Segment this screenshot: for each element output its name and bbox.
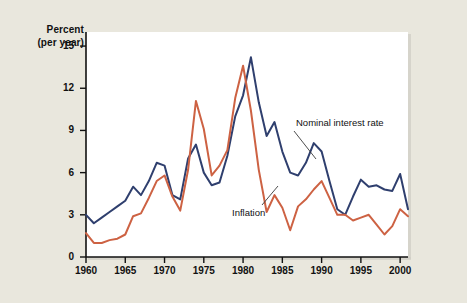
x-axis-tick-label: 1980 <box>226 265 260 276</box>
y-axis-title-line-1: Percent <box>8 24 84 35</box>
plot-area-background <box>86 32 408 257</box>
y-axis-tick-label: 12 <box>52 82 74 93</box>
y-axis-tick-label: 3 <box>52 209 74 220</box>
x-axis-tick-label: 1965 <box>108 265 142 276</box>
x-axis-tick-label: 1975 <box>187 265 221 276</box>
x-axis-tick-label: 1970 <box>148 265 182 276</box>
series-label-inflation: Inflation <box>232 207 265 218</box>
chart-figure: Percent (per year) Nominal interest rate… <box>0 0 467 303</box>
x-axis-tick-label: 1995 <box>344 265 378 276</box>
x-axis-tick-label: 2000 <box>383 265 417 276</box>
y-axis-tick-label: 6 <box>52 167 74 178</box>
plot-area-shadow-right <box>408 34 411 259</box>
x-axis-tick-label: 1990 <box>305 265 339 276</box>
y-axis-tick-label: 0 <box>52 251 74 262</box>
y-axis-ticks <box>80 46 86 257</box>
x-axis-tick-label: 1960 <box>69 265 103 276</box>
y-axis-tick-label: 9 <box>52 124 74 135</box>
x-axis-tick-label: 1985 <box>265 265 299 276</box>
y-axis-tick-label: 15 <box>52 40 74 51</box>
series-label-nominal-interest-rate: Nominal interest rate <box>296 117 384 128</box>
